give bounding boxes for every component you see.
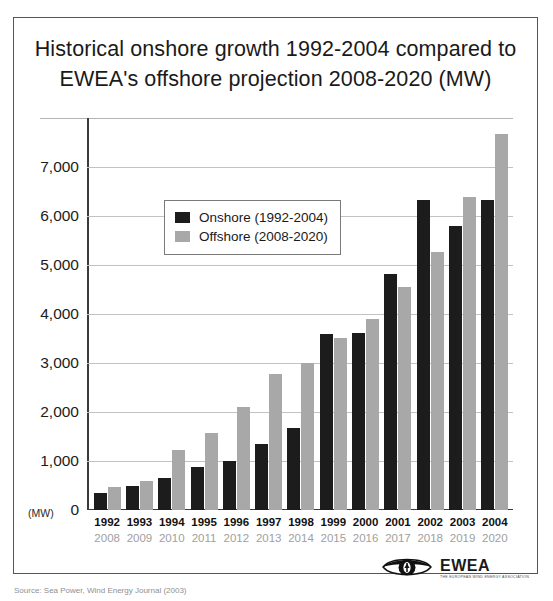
legend-label-onshore: Onshore (1992-2004) (199, 210, 328, 225)
legend-swatch-offshore (175, 231, 190, 242)
bar-group-1999 (317, 334, 349, 510)
x-tick-label-offshore-2016: 2016 (350, 530, 382, 547)
x-tick-label-onshore-2001: 2001 (382, 514, 414, 530)
y-tick-label-4000: 4,000 (40, 305, 79, 323)
chart-title-line-2: EWEA's offshore projection 2008-2020 (MW… (14, 64, 537, 94)
x-axis-label-group-2001: 20012017 (382, 514, 414, 547)
y-tick-label-7000: 7,000 (40, 158, 79, 176)
y-tick-label-2000: 2,000 (40, 403, 79, 421)
y-tick-label-5000: 5,000 (40, 256, 79, 274)
bar-onshore-1999 (320, 334, 333, 510)
logo-text: EWEA THE EUROPEAN WIND ENERGY ASSOCIATIO… (440, 558, 529, 580)
x-axis-label-group-1995: 19952011 (188, 514, 220, 547)
logo-name: EWEA (440, 558, 529, 574)
x-axis-label-group-2002: 20022018 (414, 514, 446, 547)
x-tick-label-onshore-2004: 2004 (479, 514, 511, 530)
x-axis-label-group-2003: 20032019 (447, 514, 479, 547)
x-tick-label-offshore-2015: 2015 (317, 530, 349, 547)
x-tick-label-onshore-2002: 2002 (414, 514, 446, 530)
y-tick-label-0: 0 (70, 501, 79, 519)
bar-offshore-1992 (108, 487, 121, 510)
x-axis-label-group-2000: 20002016 (350, 514, 382, 547)
plot-area (87, 118, 513, 510)
bar-group-1993 (123, 481, 155, 510)
bar-onshore-1995 (191, 467, 204, 510)
bar-offshore-2003 (463, 197, 476, 510)
bar-offshore-1997 (269, 374, 282, 510)
bar-group-1997 (253, 374, 285, 510)
x-tick-label-offshore-2009: 2009 (123, 530, 155, 547)
bar-offshore-1994 (172, 450, 185, 510)
x-tick-label-offshore-2014: 2014 (285, 530, 317, 547)
x-axis: 1992200819932009199420101995201119962012… (87, 514, 513, 558)
bar-onshore-1993 (126, 486, 139, 511)
bar-group-2002 (414, 200, 446, 510)
x-tick-label-onshore-1996: 1996 (220, 514, 252, 530)
bar-offshore-2001 (398, 287, 411, 510)
bar-group-1998 (285, 363, 317, 510)
bar-offshore-1995 (205, 433, 218, 510)
x-tick-label-onshore-1992: 1992 (91, 514, 123, 530)
page-title: Historical onshore growth 1992-2004 comp… (14, 34, 537, 94)
bar-group-1994 (156, 450, 188, 510)
y-axis-unit-label: (MW) (28, 507, 54, 519)
bar-onshore-1994 (158, 478, 171, 510)
x-axis-label-group-1998: 19982014 (285, 514, 317, 547)
bar-group-2004 (479, 134, 511, 510)
bar-onshore-1996 (223, 461, 236, 510)
x-tick-label-offshore-2019: 2019 (447, 530, 479, 547)
y-tick-label-1000: 1,000 (40, 452, 79, 470)
x-tick-label-offshore-2011: 2011 (188, 530, 220, 547)
x-axis-label-group-1997: 19972013 (253, 514, 285, 547)
x-tick-label-onshore-2000: 2000 (350, 514, 382, 530)
x-tick-label-offshore-2018: 2018 (414, 530, 446, 547)
bar-offshore-1999 (334, 338, 347, 510)
legend-item-offshore: Offshore (2008-2020) (175, 227, 328, 246)
x-axis-label-group-1999: 19992015 (317, 514, 349, 547)
bar-group-1996 (220, 407, 252, 510)
bar-offshore-1998 (301, 363, 314, 510)
x-tick-label-offshore-2008: 2008 (91, 530, 123, 547)
bar-offshore-2002 (431, 252, 444, 510)
bar-onshore-1997 (255, 444, 268, 510)
bar-group-2000 (349, 319, 381, 510)
x-tick-label-offshore-2017: 2017 (382, 530, 414, 547)
x-axis-label-group-1996: 19962012 (220, 514, 252, 547)
bar-onshore-2000 (352, 333, 365, 510)
eye-icon (381, 554, 433, 584)
bar-onshore-2004 (481, 200, 494, 510)
x-tick-label-onshore-1995: 1995 (188, 514, 220, 530)
x-tick-label-onshore-1998: 1998 (285, 514, 317, 530)
legend: Onshore (1992-2004) Offshore (2008-2020) (164, 200, 341, 255)
bar-group-1992 (91, 487, 123, 510)
bar-offshore-1996 (237, 407, 250, 510)
x-tick-label-onshore-1999: 1999 (317, 514, 349, 530)
bar-onshore-1998 (287, 428, 300, 510)
legend-label-offshore: Offshore (2008-2020) (199, 229, 328, 244)
x-tick-label-offshore-2013: 2013 (253, 530, 285, 547)
y-axis: 01,0002,0003,0004,0005,0006,0007,000(MW) (14, 118, 87, 510)
chart-title-line-1: Historical onshore growth 1992-2004 comp… (14, 34, 537, 64)
x-tick-label-onshore-1997: 1997 (253, 514, 285, 530)
bar-offshore-1993 (140, 481, 153, 510)
figure-frame: Historical onshore growth 1992-2004 comp… (13, 17, 538, 574)
x-axis-label-group-1994: 19942010 (156, 514, 188, 547)
bar-onshore-1992 (94, 493, 107, 510)
x-tick-label-onshore-1994: 1994 (156, 514, 188, 530)
x-tick-label-offshore-2010: 2010 (156, 530, 188, 547)
x-tick-label-offshore-2020: 2020 (479, 530, 511, 547)
logo-tagline: THE EUROPEAN WIND ENERGY ASSOCIATION (440, 574, 529, 580)
bar-onshore-2002 (417, 200, 430, 510)
bar-group-2003 (446, 197, 478, 510)
y-tick-label-3000: 3,000 (40, 354, 79, 372)
x-axis-label-group-1993: 19932009 (123, 514, 155, 547)
legend-swatch-onshore (175, 212, 190, 223)
ewea-logo: EWEA THE EUROPEAN WIND ENERGY ASSOCIATIO… (381, 554, 529, 584)
x-tick-label-onshore-2003: 2003 (447, 514, 479, 530)
x-tick-label-onshore-1993: 1993 (123, 514, 155, 530)
figure-caption: Source: Sea Power, Wind Energy Journal (… (14, 586, 314, 598)
bar-offshore-2000 (366, 319, 379, 510)
bar-onshore-2003 (449, 226, 462, 510)
bar-offshore-2004 (495, 134, 508, 510)
bar-group-1995 (188, 433, 220, 510)
